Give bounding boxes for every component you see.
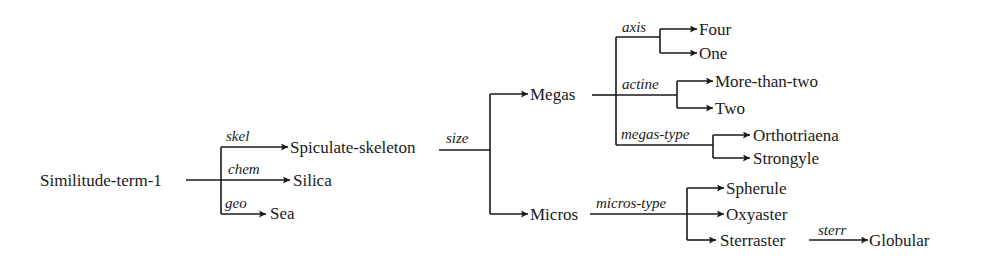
node-spherule: Spherule <box>726 179 786 198</box>
edge-label-axis: axis <box>622 19 646 35</box>
edge-label-size: size <box>446 130 469 146</box>
node-two: Two <box>715 99 745 118</box>
node-micros: Micros <box>530 205 578 224</box>
edge-label-micros-type: micros-type <box>596 195 667 211</box>
node-sea: Sea <box>270 204 295 223</box>
edge-label-megas-type: megas-type <box>621 126 690 142</box>
edge-label-chem: chem <box>228 161 260 177</box>
edge-label-geo: geo <box>225 195 247 211</box>
node-four: Four <box>699 20 731 39</box>
edge-label-skel: skel <box>226 128 249 144</box>
node-oxyaster: Oxyaster <box>726 205 788 224</box>
similitude-tree-diagram: Similitude-term-1 skel Spiculate-skeleto… <box>0 0 984 262</box>
node-spiculate-skeleton: Spiculate-skeleton <box>290 138 416 157</box>
node-globular: Globular <box>869 231 930 250</box>
node-orthotriaena: Orthotriaena <box>753 126 839 145</box>
node-silica: Silica <box>293 171 332 190</box>
node-sterraster: Sterraster <box>720 231 785 250</box>
edge-label-sterr: sterr <box>818 222 847 238</box>
edge-label-actine: actine <box>622 76 659 92</box>
node-megas: Megas <box>530 85 575 104</box>
node-more-than-two: More-than-two <box>715 72 818 91</box>
node-similitude-term-1: Similitude-term-1 <box>40 171 162 190</box>
node-one: One <box>699 44 727 63</box>
node-strongyle: Strongyle <box>753 149 819 168</box>
